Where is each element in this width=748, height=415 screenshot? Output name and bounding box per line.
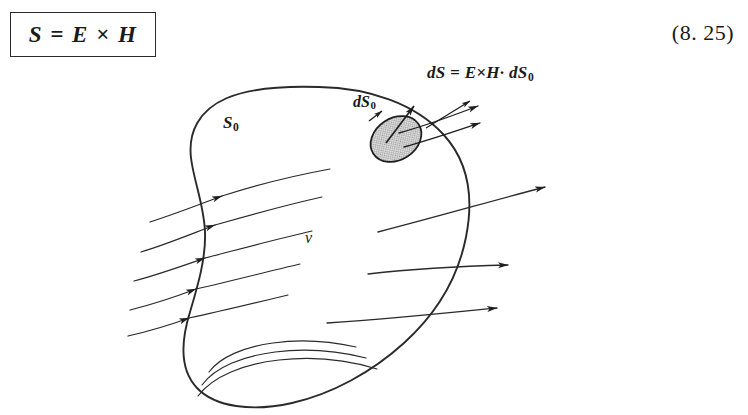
- outgoing-flow-lines: [327, 187, 545, 323]
- flow-continuation-2: [215, 197, 322, 225]
- flow-continuation-1: [222, 169, 330, 196]
- surface-element-ellipse: [362, 107, 430, 172]
- diagram-svg: [0, 0, 748, 415]
- outgoing-flow-line-1: [378, 187, 545, 232]
- incoming-flow-line-5: [128, 318, 189, 336]
- incoming-flow-line-4: [130, 289, 196, 310]
- flow-continuation-3: [205, 231, 312, 258]
- inner-flow-arc-2: [202, 350, 366, 385]
- inner-flow-arc-3: [198, 358, 377, 396]
- surface-element-leader-arrow: [369, 111, 382, 121]
- inner-flow-arc-1: [209, 341, 356, 372]
- incoming-flow-line-3: [134, 258, 205, 281]
- flow-continuation-5: [189, 295, 288, 318]
- figure-root: S = E × H (8. 25) dS = E×H· dS0 dS0 S0 v: [0, 0, 748, 415]
- flux-label-leader: [426, 101, 470, 128]
- surface-element-patch: [362, 107, 430, 172]
- flow-continuation-4: [196, 264, 300, 289]
- incoming-flow-lines: [128, 196, 222, 336]
- incoming-flow-line-continuations: [189, 169, 330, 318]
- outgoing-flow-line-2: [368, 265, 508, 274]
- inner-flow-arcs: [198, 341, 377, 396]
- incoming-flow-line-1: [150, 196, 222, 222]
- outgoing-flow-line-3: [327, 308, 497, 323]
